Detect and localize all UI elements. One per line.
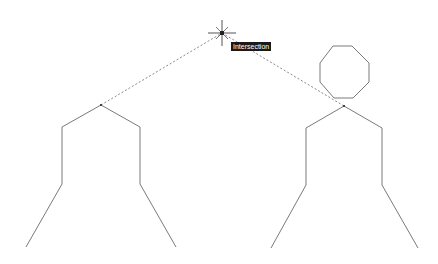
left-figure-polyline[interactable] <box>26 105 176 247</box>
snap-tooltip: Intersection <box>231 42 271 51</box>
snap-point-marker <box>343 105 345 107</box>
snap-point-markers <box>100 104 345 107</box>
right-figure-polyline[interactable] <box>271 106 418 248</box>
octagon-shape[interactable] <box>320 46 369 98</box>
tracking-line <box>101 33 222 105</box>
drawing-canvas[interactable] <box>0 0 438 264</box>
snap-tooltip-label: Intersection <box>233 43 269 50</box>
snap-point-marker <box>100 104 102 106</box>
